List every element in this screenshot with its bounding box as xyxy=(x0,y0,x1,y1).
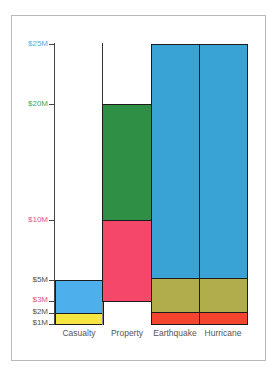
y-tick-label-3m: $3M xyxy=(32,296,48,304)
y-tick-label-20m: $20M xyxy=(28,100,48,108)
bar-property-outline xyxy=(102,43,103,104)
bar-earthquake-segment-1m-2m xyxy=(151,312,200,325)
bar-property-lower-outline xyxy=(102,302,103,325)
bar-hurricane-segment-2m-5m xyxy=(199,278,248,313)
bar-property-segment-10m-20m xyxy=(102,104,152,221)
y-tick-25m xyxy=(49,44,55,45)
y-tick-20m xyxy=(49,104,55,105)
x-label-property: Property xyxy=(103,328,151,338)
x-label-casualty: Casualty xyxy=(55,328,103,338)
bar-casualty-segment-2m-5m xyxy=(55,280,104,314)
bar-property-segment-3m-10m xyxy=(102,220,152,302)
bar-hurricane-segment-1m-2m xyxy=(199,312,248,325)
x-label-hurricane: Hurricane xyxy=(199,328,247,338)
y-tick-label-1m: $1M xyxy=(32,319,48,327)
bar-hurricane-segment-5m-25m xyxy=(199,44,248,279)
y-tick-label-10m: $10M xyxy=(28,216,48,224)
y-tick-label-5m: $5M xyxy=(32,276,48,284)
y-tick-label-2m: $2M xyxy=(32,308,48,316)
bar-earthquake-segment-5m-25m xyxy=(151,44,200,279)
y-tick-10m xyxy=(49,220,55,221)
y-tick-label-25m: $25M xyxy=(28,40,48,48)
x-label-earthquake: Earthquake xyxy=(151,328,199,338)
bar-casualty-segment-1m-2m xyxy=(55,313,104,325)
bar-earthquake-segment-2m-5m xyxy=(151,278,200,313)
